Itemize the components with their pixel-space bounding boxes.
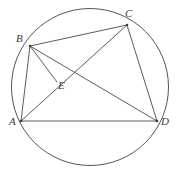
point-label-e: E	[58, 80, 65, 91]
vertex-dot-b	[29, 45, 32, 48]
geometry-diagram: A B C D E	[0, 0, 180, 187]
segment-bd	[30, 46, 157, 121]
vertex-dot-a	[20, 120, 23, 123]
segment-ac	[21, 25, 127, 121]
geometry-canvas	[0, 0, 180, 187]
point-label-d: D	[161, 116, 169, 127]
segment-group	[21, 25, 157, 121]
vertex-dot-c	[126, 24, 129, 27]
vertex-dot-d	[156, 120, 159, 123]
segment-bc	[30, 25, 127, 46]
point-label-a: A	[9, 116, 16, 127]
segment-ab	[21, 46, 30, 121]
point-label-c: C	[125, 8, 132, 19]
circumscribed-circle	[12, 9, 169, 166]
vertex-dot-group	[20, 24, 159, 123]
segment-be	[30, 46, 57, 82]
point-label-b: B	[16, 33, 23, 44]
